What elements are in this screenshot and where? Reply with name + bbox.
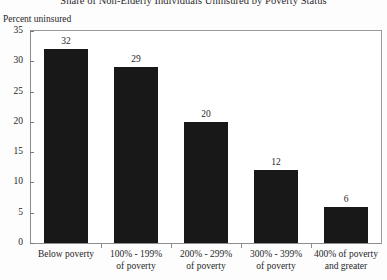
x-axis-label-line1: 400% of poverty — [314, 249, 378, 259]
x-axis-label-line1: 300% - 399% — [250, 249, 302, 259]
y-axis-tick-label: 0 — [18, 237, 23, 247]
y-axis-tick-mark — [30, 243, 34, 244]
x-axis-tick-mark — [101, 244, 102, 248]
y-axis-tick-label: 35 — [14, 25, 24, 35]
x-axis-label-line1: Below poverty — [38, 249, 94, 259]
bar-value-label: 20 — [171, 109, 241, 120]
bar-value-label: 6 — [311, 194, 381, 205]
bar[interactable] — [114, 67, 158, 243]
x-axis-label-line2: and greater — [311, 261, 381, 273]
y-axis-tick-label: 20 — [14, 116, 24, 126]
bar-value-label: 12 — [241, 157, 311, 168]
bar-group: 29 — [101, 31, 171, 243]
y-axis-tick-label: 30 — [14, 55, 24, 65]
x-axis-label-line2: of poverty — [241, 261, 311, 273]
y-axis-title: Percent uninsured — [3, 14, 71, 25]
bar-value-label: 29 — [101, 54, 171, 65]
bar-value-label: 32 — [31, 36, 101, 47]
x-axis-labels: Below poverty100% - 199%of poverty200% -… — [31, 249, 381, 280]
y-axis-tick-label: 15 — [14, 146, 24, 156]
x-axis-tick-mark — [171, 244, 172, 248]
x-axis-tick-mark — [241, 244, 242, 248]
x-axis-category-label: 200% - 299%of poverty — [171, 249, 241, 272]
bar[interactable] — [44, 49, 88, 243]
chart-figure: Share of Non-Elderly Individuals Uninsur… — [0, 0, 387, 280]
bar-group: 32 — [31, 31, 101, 243]
x-axis-tick-mark — [311, 244, 312, 248]
y-axis-tick-label: 5 — [18, 207, 23, 217]
x-axis-category-label: 300% - 399%of poverty — [241, 249, 311, 272]
x-axis-label-line2: of poverty — [171, 261, 241, 273]
bar[interactable] — [254, 170, 298, 243]
y-axis-tick-label: 25 — [14, 86, 24, 96]
x-axis-category-label: Below poverty — [31, 249, 101, 261]
x-axis-label-line1: 200% - 299% — [180, 249, 232, 259]
x-axis-label-line1: 100% - 199% — [110, 249, 162, 259]
bar[interactable] — [184, 122, 228, 243]
x-axis-category-label: 100% - 199%of poverty — [101, 249, 171, 272]
bar-group: 20 — [171, 31, 241, 243]
x-axis-category-label: 400% of povertyand greater — [311, 249, 381, 272]
x-axis-label-line2: of poverty — [101, 261, 171, 273]
bar[interactable] — [324, 207, 368, 243]
bar-group: 6 — [311, 31, 381, 243]
plot-area: 322920126 — [31, 31, 381, 243]
chart-title: Share of Non-Elderly Individuals Uninsur… — [0, 0, 387, 7]
y-axis-tick-label: 10 — [14, 176, 24, 186]
bar-group: 12 — [241, 31, 311, 243]
